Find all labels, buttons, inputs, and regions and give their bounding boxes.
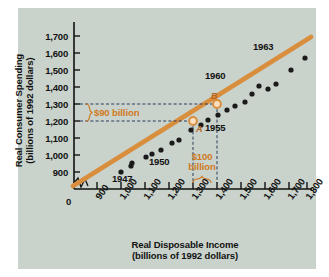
x-axis-title-line2: (billions of 1992 dollars): [132, 250, 238, 261]
point-a-label: A: [196, 124, 203, 134]
data-point: [288, 67, 293, 72]
consumption-function-figure: 1,700 1,600 1,500 1,400 1,300 1,200 1,10…: [0, 0, 329, 277]
data-point: [188, 127, 193, 132]
callout-100-line2: billion: [188, 161, 215, 172]
y-axis-ticks: [74, 36, 80, 172]
data-point: [232, 103, 237, 108]
highlight-point-b: [213, 100, 221, 108]
y-axis-title-line2: (billions of 1992 dollars): [24, 58, 35, 164]
year-label-1950: 1950: [149, 156, 169, 167]
data-point: [215, 112, 220, 117]
y-axis-title: Real Consumer Spending (billions of 1992…: [14, 31, 35, 191]
year-label-1960: 1960: [205, 70, 225, 81]
y-axis-title-line1: Real Consumer Spending: [13, 54, 24, 167]
data-point: [129, 160, 134, 165]
x-axis-title-line1: Real Disposable Income: [131, 239, 238, 250]
point-b-label: B: [211, 91, 218, 101]
callout-90-billion: $90 billion: [94, 108, 139, 118]
data-point: [158, 147, 163, 152]
year-label-1955: 1955: [205, 122, 225, 133]
year-label-1963: 1963: [253, 41, 273, 52]
data-point: [256, 83, 261, 88]
data-point: [242, 99, 247, 104]
data-point: [265, 86, 270, 91]
brace-90-billion: [86, 104, 93, 121]
origin-label: 0: [66, 196, 71, 207]
data-point: [302, 55, 307, 60]
x-axis-title: Real Disposable Income (billions of 1992…: [60, 240, 310, 261]
data-point: [169, 140, 174, 145]
data-point: [176, 137, 181, 142]
data-point: [224, 107, 229, 112]
year-label-1947: 1947: [112, 173, 132, 184]
data-point: [273, 81, 278, 86]
data-point: [249, 91, 254, 96]
callout-100-line1: $100: [192, 151, 213, 162]
callout-100-billion: $100 billion: [176, 152, 228, 173]
data-point: [143, 154, 148, 159]
